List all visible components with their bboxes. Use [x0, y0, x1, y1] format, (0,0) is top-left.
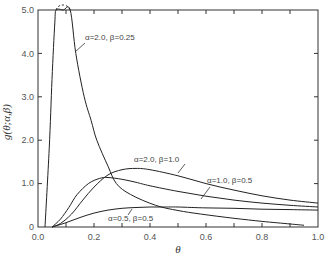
x-tick-label: 0.8: [256, 232, 269, 242]
x-axis-label: θ: [175, 243, 181, 255]
beta-density-chart: 0.0 0.2 0.4 0.6 0.8 1.0 0 1.0 2.0 3.0 4.…: [0, 0, 332, 256]
curve-alpha05-beta05: [52, 207, 318, 227]
annotation-alpha2-beta1: α=2.0, β=1.0: [134, 155, 180, 164]
annotation-alpha1-beta05: α=1.0, β=0.5: [207, 176, 253, 185]
annotation-alpha2-beta025: α=2.0, β=0.25: [85, 33, 135, 42]
curve-alpha1-beta05: [52, 177, 318, 227]
y-tick-label: 0: [29, 222, 34, 232]
x-tick-label: 0.4: [144, 232, 157, 242]
curve-alpha2-beta025: [45, 7, 304, 227]
x-tick-label: 0.2: [88, 232, 101, 242]
leader-line: [201, 187, 210, 199]
x-tick-label: 1.0: [312, 232, 325, 242]
y-tick-label: 4.0: [21, 49, 34, 59]
x-tick-label: 0.6: [200, 232, 213, 242]
x-tick-label: 0.0: [32, 232, 45, 242]
y-tick-label: 1.0: [21, 178, 34, 188]
y-tick-label: 2.0: [21, 135, 34, 145]
y-tick-label: 5.0: [21, 5, 34, 15]
leader-line: [178, 164, 185, 173]
y-tick-label: 3.0: [21, 92, 34, 102]
annotation-alpha05-beta05: α=0.5, β=0.5: [108, 214, 154, 223]
y-axis-label: g(θ;α,β): [0, 104, 13, 140]
leader-line: [75, 43, 85, 52]
axis-ticks: [38, 10, 318, 227]
curve-alpha2-beta1: [52, 168, 318, 227]
plot-frame: [38, 10, 318, 227]
